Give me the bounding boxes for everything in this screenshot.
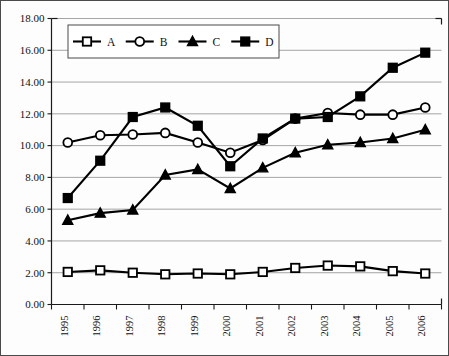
data-point-open-circle	[193, 138, 202, 147]
data-point-open-square	[259, 268, 267, 276]
data-point-filled-square	[241, 37, 250, 46]
data-point-filled-square	[226, 162, 235, 171]
y-axis-tick-label: 0.00	[25, 298, 45, 310]
data-point-filled-square	[128, 113, 137, 122]
data-point-open-square	[96, 266, 104, 274]
data-point-open-square	[64, 268, 72, 276]
chart-frame: 0.002.004.006.008.0010.0012.0014.0016.00…	[0, 0, 449, 356]
data-point-open-square	[161, 270, 169, 278]
data-point-filled-square	[63, 194, 72, 203]
data-point-filled-triangle	[420, 125, 430, 134]
y-axis-tick-label: 8.00	[25, 171, 45, 183]
x-axis-tick-label: 1999	[189, 316, 200, 337]
data-point-filled-square	[388, 63, 397, 72]
data-point-open-square	[356, 262, 364, 270]
x-axis-ticks-group	[52, 305, 442, 310]
y-axis-tick-label: 6.00	[25, 203, 45, 215]
y-axis-tick-label: 16.00	[20, 44, 45, 56]
x-axis-tick-label: 2002	[286, 316, 297, 337]
data-point-open-square	[421, 269, 429, 277]
y-axis-tick-label: 2.00	[25, 267, 45, 279]
y-axis-tick-label: 12.00	[20, 108, 45, 120]
x-axis-tick-label: 2004	[351, 315, 362, 337]
data-point-open-square	[194, 269, 202, 277]
legend-group: ABCD	[68, 25, 279, 58]
data-point-open-square	[129, 269, 137, 277]
y-axis-tick-label: 14.00	[20, 76, 45, 88]
data-point-filled-square	[161, 103, 170, 112]
data-point-open-circle	[161, 129, 170, 138]
data-point-filled-square	[323, 113, 332, 122]
data-point-open-circle	[63, 138, 72, 147]
data-point-open-circle	[421, 103, 430, 112]
x-axis-tick-label: 1997	[124, 316, 135, 337]
data-point-open-square	[324, 261, 332, 269]
x-axis-labels-group: 1995199619971998199920002001200220032004…	[59, 315, 428, 337]
legend-label: B	[160, 36, 168, 48]
line-chart-svg: 0.002.004.006.008.0010.0012.0014.0016.00…	[1, 1, 449, 356]
data-point-open-circle	[135, 37, 144, 46]
series-a	[64, 261, 430, 278]
y-axis-tick-label: 4.00	[25, 235, 45, 247]
data-point-open-circle	[128, 130, 137, 139]
x-axis-tick-label: 2000	[221, 316, 232, 337]
x-axis-tick-label: 2006	[416, 316, 427, 337]
y-axis-tick-label: 18.00	[20, 12, 45, 24]
data-point-open-circle	[356, 110, 365, 119]
data-point-open-square	[291, 264, 299, 272]
data-point-open-circle	[96, 131, 105, 140]
data-point-filled-square	[356, 92, 365, 101]
x-axis-tick-label: 2001	[254, 316, 265, 337]
x-axis-tick-label: 2005	[384, 316, 395, 337]
legend-label: A	[107, 36, 116, 48]
data-point-filled-square	[96, 156, 105, 165]
y-axis-labels-group: 0.002.004.006.008.0010.0012.0014.0016.00…	[20, 12, 45, 310]
y-axis-tick-label: 10.00	[20, 139, 45, 151]
series-b	[63, 103, 429, 157]
x-axis-tick-label: 2003	[319, 316, 330, 337]
x-axis-tick-label: 1995	[59, 316, 70, 337]
legend-label: D	[265, 36, 273, 48]
series-layer	[63, 48, 431, 278]
data-point-filled-square	[193, 121, 202, 130]
legend-label: C	[212, 36, 220, 48]
data-point-filled-square	[291, 114, 300, 123]
data-point-filled-triangle	[193, 164, 203, 173]
plot-area: 0.002.004.006.008.0010.0012.0014.0016.00…	[1, 1, 449, 356]
data-point-open-square	[226, 270, 234, 278]
data-point-filled-square	[258, 134, 267, 143]
data-point-open-circle	[388, 110, 397, 119]
data-point-open-square	[83, 37, 91, 45]
axis-lines-group	[52, 19, 442, 305]
x-axis-tick-label: 1998	[156, 316, 167, 337]
data-point-open-circle	[226, 148, 235, 157]
data-point-filled-triangle	[225, 183, 235, 192]
data-point-open-square	[389, 267, 397, 275]
x-axis-tick-label: 1996	[91, 316, 102, 337]
data-point-filled-square	[421, 48, 430, 57]
